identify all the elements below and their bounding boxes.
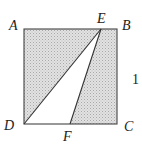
label-b: B <box>122 18 131 33</box>
side-length-label: 1 <box>132 72 139 87</box>
label-d: D <box>3 118 14 133</box>
label-a: A <box>8 18 18 33</box>
label-c: C <box>124 119 134 134</box>
label-f: F <box>62 129 72 144</box>
geometry-diagram: A E B D F C 1 <box>0 0 142 146</box>
label-e: E <box>96 11 106 26</box>
